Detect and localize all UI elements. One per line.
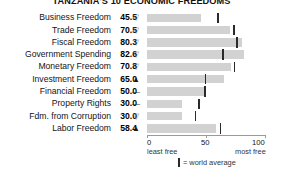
chart-title: TANZANIA'S 10 ECONOMIC FREEDOMS	[0, 0, 283, 6]
row-category-label: Investment Freedom	[32, 74, 111, 85]
world-average-tick	[204, 86, 206, 97]
row-category-label: Fiscal Freedom	[52, 37, 111, 48]
axis-tick-label: 100	[252, 138, 265, 147]
row-category-label: Fdm. from Corruption	[29, 111, 111, 122]
world-average-marker-icon	[178, 158, 180, 167]
score-bar	[147, 75, 224, 84]
chart-row: Trade Freedom70.5▽	[0, 24, 283, 36]
score-bar	[147, 50, 244, 59]
world-average-tick	[222, 49, 224, 60]
score-bar	[147, 26, 230, 35]
score-bar	[147, 63, 231, 72]
row-plot-area	[147, 87, 265, 97]
axis-end-label: least free	[147, 147, 177, 156]
world-average-tick	[217, 13, 219, 24]
trend-flat-icon: —	[130, 86, 142, 97]
chart-row: Fdm. from Corruption30.0▽	[0, 110, 283, 122]
row-plot-area	[147, 38, 265, 48]
row-category-label: Financial Freedom	[40, 86, 111, 97]
row-plot-area	[147, 124, 265, 134]
score-bar	[147, 38, 242, 47]
world-average-tick	[236, 37, 238, 48]
chart-row: Monetary Freedom70.8▽	[0, 61, 283, 73]
row-plot-area	[147, 62, 265, 72]
axis-tick-label: 50	[201, 138, 209, 147]
row-plot-area	[147, 99, 265, 109]
chart-rows: Business Freedom45.5▽Trade Freedom70.5▽F…	[0, 12, 283, 135]
trend-down-icon: ▽	[130, 25, 142, 36]
chart-row: Financial Freedom50.0—	[0, 86, 283, 98]
trend-down-icon: ▽	[130, 37, 142, 48]
world-average-tick	[234, 62, 236, 73]
score-bar	[147, 100, 182, 109]
axis-tick-mark	[265, 135, 266, 138]
axis-tick-label: 0	[147, 138, 151, 147]
row-category-label: Government Spending	[25, 49, 111, 60]
trend-up-icon: ▲	[130, 74, 142, 85]
trend-down-icon: ▽	[130, 49, 142, 60]
chart-row: Investment Freedom65.0▲	[0, 73, 283, 85]
score-bar	[147, 124, 216, 133]
chart-row: Government Spending82.6▽	[0, 49, 283, 61]
chart-row: Fiscal Freedom80.3▽	[0, 37, 283, 49]
world-average-tick	[198, 99, 200, 110]
row-category-label: Trade Freedom	[52, 25, 111, 36]
row-category-label: Property Rights	[52, 98, 111, 109]
row-plot-area	[147, 74, 265, 84]
trend-down-icon: ▽	[130, 111, 142, 122]
score-bar	[147, 87, 206, 96]
legend-label-world-average: = world average	[183, 158, 236, 167]
world-average-tick	[195, 111, 197, 122]
row-plot-area	[147, 25, 265, 35]
world-average-tick	[220, 123, 222, 134]
economic-freedoms-chart: TANZANIA'S 10 ECONOMIC FREEDOMS Business…	[0, 0, 283, 171]
row-category-label: Monetary Freedom	[38, 61, 111, 72]
trend-up-icon: ▲	[130, 123, 142, 134]
world-average-tick	[205, 74, 207, 85]
score-bar	[147, 14, 201, 23]
world-average-tick	[233, 25, 235, 36]
trend-flat-icon: —	[130, 98, 142, 109]
row-plot-area	[147, 50, 265, 60]
row-plot-area	[147, 111, 265, 121]
chart-row: Labor Freedom58.4▲	[0, 123, 283, 135]
chart-row: Property Rights30.0—	[0, 98, 283, 110]
chart-row: Business Freedom45.5▽	[0, 12, 283, 24]
score-bar	[147, 112, 182, 121]
trend-down-icon: ▽	[130, 61, 142, 72]
row-plot-area	[147, 13, 265, 23]
trend-down-icon: ▽	[130, 12, 142, 23]
row-category-label: Business Freedom	[39, 12, 111, 23]
axis-end-label: most free	[235, 147, 266, 156]
row-category-label: Labor Freedom	[52, 123, 111, 134]
